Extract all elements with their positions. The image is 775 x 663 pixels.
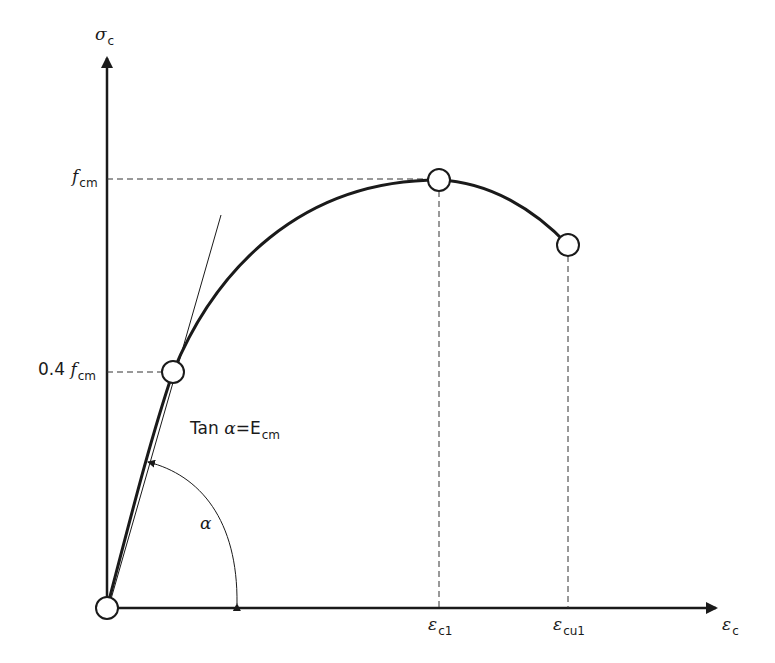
fcm-subscript: cm	[79, 176, 97, 190]
ec1-subscript: c1	[438, 624, 452, 638]
angle-label: α	[200, 513, 211, 533]
equals-sign: =	[236, 418, 250, 438]
epsilon-symbol: ε	[722, 614, 731, 634]
peak-point	[428, 169, 450, 191]
y-axis-subscript: c	[108, 34, 115, 48]
origin-point	[96, 597, 118, 619]
tangent-annotation: Tan α=Ecm	[190, 418, 280, 438]
alpha-symbol: α	[224, 418, 235, 438]
0.4fcm-point	[162, 361, 184, 383]
0.4fcm-prefix: 0.4	[38, 359, 70, 379]
ultimate-point	[557, 234, 579, 256]
tan-text: Tan	[190, 418, 224, 438]
fcm-symbol: f	[72, 166, 78, 186]
ecu1-label: εcu1	[553, 614, 585, 634]
ec1-symbol: ε	[428, 614, 437, 634]
ecu1-subscript: cu1	[563, 624, 585, 638]
stress-strain-diagram	[0, 0, 775, 663]
y-axis-label: σc	[95, 24, 114, 44]
x-axis-label: εc	[722, 614, 739, 634]
angle-alpha-symbol: α	[200, 513, 211, 533]
sigma-symbol: σ	[95, 24, 107, 44]
stress-strain-curve	[107, 180, 568, 608]
0.4fcm-subscript: cm	[78, 369, 96, 383]
fcm-label: fcm	[72, 166, 98, 186]
modulus-symbol: E	[250, 418, 261, 438]
0.4fcm-label: 0.4 fcm	[38, 359, 96, 379]
x-axis-subscript: c	[732, 624, 739, 638]
tangent-line	[109, 215, 221, 606]
ec1-label: εc1	[428, 614, 452, 634]
0.4fcm-symbol: f	[70, 359, 76, 379]
angle-arc	[148, 462, 237, 604]
modulus-subscript: cm	[262, 428, 280, 442]
ecu1-symbol: ε	[553, 614, 562, 634]
